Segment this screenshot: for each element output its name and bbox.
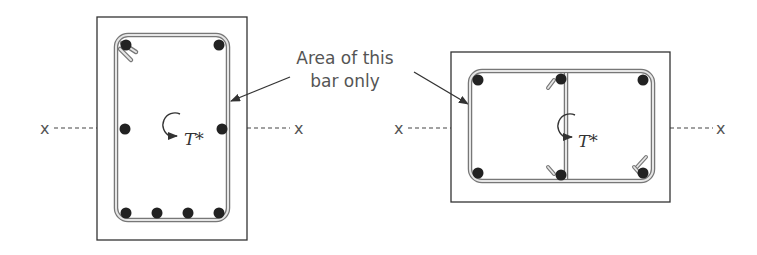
right-x-axis: x x xyxy=(394,119,725,138)
annotation-line-2: bar only xyxy=(310,71,380,91)
stirrup xyxy=(116,35,228,220)
torque-label: T* xyxy=(184,129,204,149)
stirrup xyxy=(470,71,653,181)
torsion-reinforcement-diagram: x x xyxy=(0,0,757,255)
rebar xyxy=(183,208,194,219)
axis-label-right-start: x xyxy=(394,119,403,138)
rebar xyxy=(556,74,567,85)
left-x-axis: x x xyxy=(40,119,303,138)
annotation-callout: Area of this bar only xyxy=(231,48,468,104)
axis-label-left-end: x xyxy=(294,119,303,138)
rebar xyxy=(473,168,484,179)
right-beam-section: x x xyxy=(394,52,725,202)
leader-arrow-right xyxy=(414,72,468,104)
rebar xyxy=(214,40,225,51)
rebar xyxy=(217,124,228,135)
axis-label-right-end: x xyxy=(716,119,725,138)
rebar xyxy=(473,75,484,86)
torque-label: T* xyxy=(578,131,598,151)
rebar xyxy=(638,75,649,86)
annotation-line-1: Area of this xyxy=(296,48,393,68)
rebar xyxy=(214,208,225,219)
axis-label-left-start: x xyxy=(40,119,49,138)
rebar xyxy=(121,208,132,219)
rebar xyxy=(121,40,132,51)
longitudinal-bars xyxy=(473,74,649,181)
rebar xyxy=(556,170,567,181)
rebar xyxy=(638,168,649,179)
rebar xyxy=(120,124,131,135)
leader-arrow-left xyxy=(231,77,290,101)
torque-arrow-icon: T* xyxy=(163,113,204,149)
longitudinal-bars xyxy=(120,40,228,219)
rebar xyxy=(152,208,163,219)
left-beam-section: x x xyxy=(40,17,303,240)
